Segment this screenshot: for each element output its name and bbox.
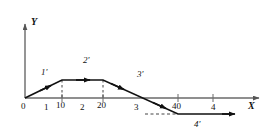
y-axis-label: Y [31, 17, 37, 27]
x-tick-label-10: 10 [56, 101, 65, 110]
segment-label-2: 2' [83, 56, 89, 65]
segment-label-3: 3' [137, 70, 143, 79]
diagram-canvas: Y X 0 1 10 2 20 3 40 4 1' 2' 3' 4' [0, 0, 274, 140]
segment-3-arrow-lower [153, 103, 166, 109]
segment-label-4: 4' [194, 120, 200, 129]
origin-label: 0 [21, 102, 26, 111]
x-tick-label-2: 2 [80, 103, 85, 112]
segment-1-arrow [40, 85, 51, 90]
x-tick-label-4: 4 [211, 103, 216, 112]
x-axis-label: X [248, 101, 255, 111]
segment-3-arrow-upper [111, 84, 124, 90]
x-tick-label-3: 3 [134, 103, 139, 112]
x-tick-label-20: 20 [97, 101, 106, 110]
x-tick-label-40: 40 [172, 102, 181, 111]
x-tick-label-1: 1 [44, 103, 49, 112]
segment-label-1: 1' [41, 68, 47, 77]
